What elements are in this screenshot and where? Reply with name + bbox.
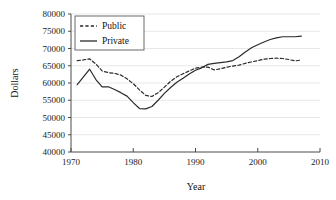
y-tick-label: 70000 [43,44,66,54]
legend-label-private: Private [102,36,129,46]
x-axis-ticks: 19701980199020002010 [62,148,330,167]
x-tick-label: 1990 [187,157,206,167]
y-tick-label: 65000 [43,61,66,71]
chart-legend: Public Private [75,16,144,50]
y-axis-title: Dollars [9,68,20,98]
series-line-public [77,58,301,96]
x-tick-label: 2000 [249,157,268,167]
y-tick-label: 50000 [43,113,66,123]
y-tick-label: 40000 [43,147,66,157]
x-axis-title: Year [187,181,206,192]
y-tick-label: 55000 [43,95,66,105]
x-tick-label: 2010 [311,157,330,167]
x-tick-label: 1980 [124,157,143,167]
legend-label-public: Public [102,21,126,31]
y-axis-ticks: 4000045000500005500060000650007000075000… [43,9,72,157]
chart-figure: 4000045000500005500060000650007000075000… [0,0,336,200]
line-chart: 4000045000500005500060000650007000075000… [0,0,336,200]
y-tick-label: 80000 [43,9,66,19]
y-tick-label: 75000 [43,26,66,36]
x-tick-label: 1970 [62,157,81,167]
y-tick-label: 45000 [43,130,66,140]
y-tick-label: 60000 [43,78,66,88]
